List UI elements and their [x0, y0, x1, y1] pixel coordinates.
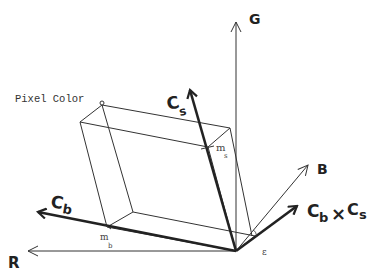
svg-text:×: ×: [331, 203, 346, 224]
svg-text:s: s: [224, 152, 228, 160]
svg-text:m: m: [100, 232, 109, 242]
b-axis-label: B: [317, 161, 328, 177]
pixel-color-point: [100, 101, 104, 105]
m-s-label: m s: [216, 142, 228, 160]
svg-text:C: C: [307, 201, 319, 221]
epsilon-label: ε: [262, 247, 267, 257]
svg-text:s: s: [178, 104, 188, 119]
cb-vector: [38, 212, 236, 251]
cross-product-label: C b × C s: [307, 200, 367, 225]
svg-text:C: C: [347, 200, 359, 219]
cross-product-vector: [236, 206, 297, 251]
svg-text:b: b: [61, 201, 73, 217]
pixel-color-label: Pixel Color: [15, 93, 84, 105]
svg-text:b: b: [319, 210, 328, 225]
svg-text:b: b: [108, 242, 113, 250]
svg-text:s: s: [359, 207, 367, 222]
r-axis-label: R: [8, 254, 20, 272]
cs-vector: [190, 90, 236, 251]
color-space-diagram: R G B Pixel Color C s C b C b × C s m s …: [0, 0, 383, 279]
cs-label: C s: [165, 92, 188, 119]
g-axis-label: G: [249, 11, 261, 27]
m-b-label: m b: [100, 232, 113, 250]
